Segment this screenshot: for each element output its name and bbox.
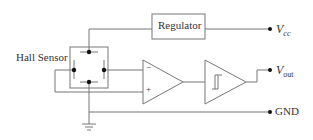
regulator-label: Regulator <box>158 19 201 31</box>
sensor-to-regulator-wire <box>89 29 152 52</box>
schmitt-trigger <box>205 60 246 104</box>
vout-label-sub: out <box>283 70 293 79</box>
vout-wire <box>246 70 270 82</box>
gnd-terminal <box>268 110 272 114</box>
vout-terminal <box>268 68 272 72</box>
vout-label: Vout <box>276 63 294 79</box>
sensor-bottom-terminal <box>87 80 91 84</box>
gnd-label: GND <box>275 105 299 117</box>
sensor-right-terminal <box>102 68 106 72</box>
circuit-wiring <box>0 0 313 140</box>
vcc-terminal <box>268 27 272 31</box>
sensor-left-terminal <box>72 68 76 72</box>
minus-sign: − <box>146 62 151 72</box>
hall-sensor-circuit-diagram: Hall Sensor Regulator − + Vcc Vout GND <box>0 0 313 140</box>
sensor-top-terminal <box>87 50 91 54</box>
plus-sign: + <box>146 84 151 94</box>
hall-sensor-label: Hall Sensor <box>16 51 68 63</box>
vcc-label: Vcc <box>276 22 290 38</box>
plus-input-wire <box>55 70 143 92</box>
vcc-label-sub: cc <box>283 29 290 38</box>
